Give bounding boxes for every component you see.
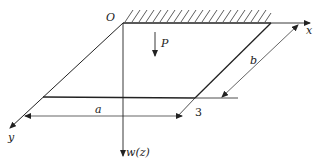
load-label: P — [160, 37, 169, 50]
y-axis-label: y — [7, 131, 15, 144]
corner-extension — [176, 98, 195, 118]
origin-label: O — [106, 11, 115, 24]
dimension-b-label: b — [250, 54, 257, 67]
dimension-a-label: a — [95, 103, 102, 116]
dimension-b-line-up — [260, 25, 298, 61]
x-axis-label: x — [306, 24, 313, 37]
w-axis-label: w(z) — [126, 146, 150, 159]
plate-outline — [43, 23, 271, 98]
fixed-support-hatching — [125, 10, 271, 22]
point-3-label: 3 — [195, 106, 202, 119]
y-axis — [10, 23, 123, 128]
plate-diagram: O x y w(z) P a b 3 — [0, 0, 319, 166]
